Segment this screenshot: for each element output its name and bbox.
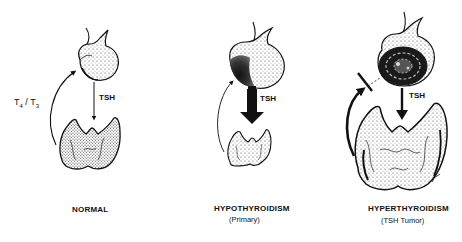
tsh-label-hyperthyroidism: TSH — [409, 91, 425, 100]
pituitary-gland-tumor — [378, 18, 434, 86]
pituitary-gland-enlarged — [230, 28, 285, 89]
panel-subtitle-hypothyroidism: (Primary) — [229, 215, 260, 224]
panel-title-hyperthyroidism: HYPERTHYROIDISM — [368, 204, 449, 213]
tsh-label-normal: TSH — [99, 93, 115, 102]
panel-hyperthyroidism — [347, 12, 447, 190]
tsh-label-hypothyroidism: TSH — [260, 94, 276, 103]
pituitary-gland-normal — [79, 30, 119, 80]
panel-title-hypothyroidism: HYPOTHYROIDISM — [214, 204, 290, 213]
hormone-label-t4-t3: T4 / T3 — [14, 97, 39, 109]
thyroid-gland-normal — [60, 118, 120, 169]
thyroid-gland-small — [228, 130, 271, 166]
feedback-block-bar — [358, 73, 372, 91]
feedback-dashed-continuation — [368, 78, 380, 86]
tsh-arrow-medium — [396, 88, 408, 120]
panel-subtitle-hyperthyroidism: (TSH Tumor) — [381, 216, 424, 225]
pituitary-stalk — [86, 28, 89, 46]
t3-subscript: 3 — [36, 103, 39, 109]
panel-title-normal: NORMAL — [72, 205, 108, 214]
